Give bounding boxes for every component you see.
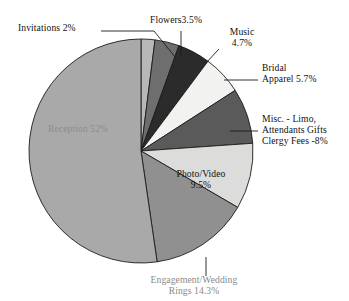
leader-line-music xyxy=(205,49,219,64)
label-invitations: Invitations 2% xyxy=(18,22,76,33)
label-misc-line3: Clergy Fees -8% xyxy=(262,135,328,146)
pie-chart-svg xyxy=(0,0,349,301)
label-music: Music 4.7% xyxy=(215,26,269,48)
label-music-line1: Music xyxy=(215,26,269,37)
pie-slice-reception xyxy=(29,39,157,263)
label-rings-line1: Engagement/Wedding xyxy=(136,274,252,285)
label-misc-line1: Misc. - Limo, xyxy=(262,113,328,124)
label-flowers-text: Flowers3.5% xyxy=(150,14,202,25)
label-reception-text: Reception 52% xyxy=(48,123,108,134)
label-misc-line2: Attendants Gifts xyxy=(262,124,328,135)
label-bridal-line1: Bridal xyxy=(262,62,316,73)
label-reception: Reception 52% xyxy=(48,123,108,134)
label-photo-line2: 9.5% xyxy=(158,179,244,190)
label-photo-line1: Photo/Video xyxy=(158,168,244,179)
label-bridal-line2: Apparel 5.7% xyxy=(262,73,316,84)
pie-chart: Invitations 2% Flowers3.5% Music 4.7% Br… xyxy=(0,0,349,301)
label-misc: Misc. - Limo, Attendants Gifts Clergy Fe… xyxy=(262,113,328,146)
label-engagement-wedding-rings: Engagement/Wedding Rings 14.3% xyxy=(136,274,252,296)
label-photo-video: Photo/Video 9.5% xyxy=(158,168,244,190)
pie-slices xyxy=(29,39,253,263)
label-bridal-apparel: Bridal Apparel 5.7% xyxy=(262,62,316,84)
label-flowers: Flowers3.5% xyxy=(150,14,202,25)
label-music-line2: 4.7% xyxy=(215,37,269,48)
label-invitations-text: Invitations 2% xyxy=(18,22,76,33)
label-rings-line2: Rings 14.3% xyxy=(136,285,252,296)
